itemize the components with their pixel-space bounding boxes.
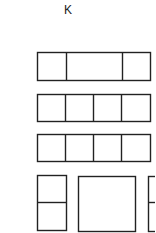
row-1-box xyxy=(38,53,151,81)
right-split-box-cropped xyxy=(149,177,156,232)
diagram-canvas xyxy=(0,0,155,233)
large-square xyxy=(79,177,136,232)
